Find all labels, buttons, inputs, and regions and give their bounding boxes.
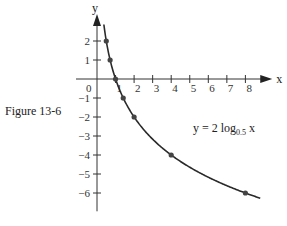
curve: [104, 24, 260, 198]
function-label-sub: 0.5: [236, 128, 246, 137]
data-point: [169, 152, 174, 157]
y-tick-label: −3: [78, 130, 90, 142]
y-tick-label: −1: [78, 92, 90, 104]
x-axis-arrow: [260, 75, 272, 83]
function-label-tail: x: [246, 121, 255, 135]
x-tick-label: 8: [246, 82, 252, 94]
function-label-main: y = 2 log: [193, 121, 236, 135]
data-point: [121, 95, 126, 100]
y-tick-label: 2: [85, 35, 91, 47]
x-axis-label: x: [276, 72, 282, 86]
data-point: [108, 57, 113, 62]
y-tick-label: −5: [78, 168, 90, 180]
x-tick-label: 3: [154, 82, 160, 94]
y-tick-label: −6: [78, 187, 90, 199]
axes: xy: [76, 1, 282, 211]
x-tick-label: 2: [135, 82, 141, 94]
series-line: [104, 24, 260, 198]
y-axis-arrow: [93, 14, 101, 26]
data-point: [113, 76, 118, 81]
data-point: [243, 190, 248, 195]
points: [104, 38, 248, 195]
y-axis-label: y: [92, 1, 98, 15]
ticks: 01234567821−1−2−3−4−5−6: [78, 35, 252, 199]
x-tick-label: 7: [228, 82, 234, 94]
y-tick-label: −2: [78, 111, 90, 123]
chart: xy 01234567821−1−2−3−4−5−6 y = 2 log0.5 …: [0, 0, 287, 226]
y-tick-label: −4: [78, 149, 90, 161]
data-point: [104, 38, 109, 43]
function-label: y = 2 log0.5 x: [193, 121, 255, 137]
y-tick-label: 1: [85, 54, 91, 66]
x-tick-label: 4: [172, 82, 178, 94]
data-point: [132, 114, 137, 119]
x-tick-label: 5: [191, 82, 197, 94]
x-tick-label: 6: [209, 82, 215, 94]
